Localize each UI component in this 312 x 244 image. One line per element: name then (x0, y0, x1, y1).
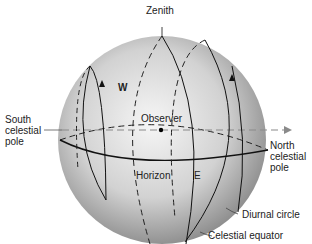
north-pole-line-3: pole (270, 162, 306, 173)
west-label: W (118, 82, 127, 93)
south-celestial-pole-label: South celestial pole (5, 114, 41, 147)
south-pole-line-2: celestial (5, 125, 41, 136)
arrowhead (284, 126, 292, 134)
horizon-label: Horizon (136, 170, 170, 181)
north-pole-line-2: celestial (270, 151, 306, 162)
north-celestial-pole-label: North celestial pole (270, 140, 306, 173)
east-label: E (194, 170, 201, 181)
observer-dot (159, 128, 163, 132)
zenith-label: Zenith (146, 5, 174, 16)
south-pole-line-3: pole (5, 136, 41, 147)
celestial-equator-label: Celestial equator (208, 230, 283, 241)
south-pole-line-1: South (5, 114, 41, 125)
north-pole-line-1: North (270, 140, 306, 151)
diurnal-circle-label: Diurnal circle (242, 209, 300, 220)
observer-label: Observer (141, 113, 182, 124)
